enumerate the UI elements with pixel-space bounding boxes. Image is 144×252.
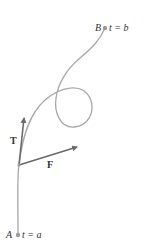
curve-diagram — [0, 0, 144, 252]
force-vector-label: F — [47, 160, 53, 170]
tangent-vector-label: T — [10, 136, 17, 146]
point-b-dot — [103, 26, 107, 30]
curve-path — [18, 28, 105, 235]
point-a-label: A — [6, 230, 12, 240]
diagram-canvas: B t = b T F A t = a — [0, 0, 144, 252]
point-b-label: B — [95, 23, 101, 33]
point-a-param-label: t = a — [22, 230, 42, 240]
vector-origin-dot — [17, 163, 20, 166]
point-a-dot — [16, 233, 20, 237]
point-b-param-label: t = b — [109, 23, 129, 33]
